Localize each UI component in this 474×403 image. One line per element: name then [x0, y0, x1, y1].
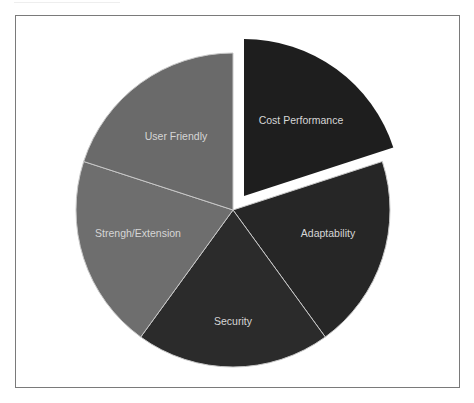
slice-label-strengh-extension: Strengh/Extension — [95, 227, 181, 239]
slice-label-adaptability: Adaptability — [301, 227, 356, 239]
slice-label-user-friendly: User Friendly — [145, 130, 208, 142]
slice-label-security: Security — [214, 315, 253, 327]
slice-label-cost-performance: Cost Performance — [259, 114, 344, 126]
pie-chart: Cost Performance Adaptability Security S… — [0, 0, 474, 403]
